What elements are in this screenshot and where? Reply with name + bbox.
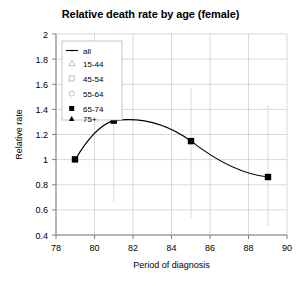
chart-plot: 2 1.8 1.6 1.4 1.2 1 0.8 0.6 0.4 78 80 82… — [0, 0, 301, 286]
x-tick-label: 90 — [282, 243, 292, 253]
y-tick-label: 1.6 — [35, 80, 48, 90]
y-axis-title: Relative rate — [14, 109, 24, 160]
x-tick-label: 86 — [205, 243, 215, 253]
y-tick-label: 0.4 — [35, 231, 48, 241]
chart-legend: all 15-44 45-54 55-64 65-74 75+ — [62, 41, 122, 124]
data-point-marker — [265, 174, 271, 180]
x-tick-labels: 78 80 82 84 86 88 90 — [51, 243, 292, 253]
legend-label: all — [83, 47, 91, 56]
legend-marker-filled-square-icon — [69, 106, 74, 111]
x-tick-label: 78 — [51, 243, 61, 253]
legend-label: 55-64 — [83, 90, 104, 99]
y-tick-label: 1.4 — [35, 105, 48, 115]
y-tick-label: 2 — [43, 30, 48, 40]
y-tick-label: 1.8 — [35, 55, 48, 65]
data-point-marker — [72, 156, 78, 162]
y-tick-label: 0.6 — [35, 205, 48, 215]
x-tick-label: 88 — [243, 243, 253, 253]
data-point-marker — [188, 138, 194, 144]
x-tick-label: 82 — [128, 243, 138, 253]
legend-label: 75+ — [83, 115, 97, 124]
chart-container: Relative death rate by age (female) — [0, 0, 301, 286]
y-axis-ticks — [52, 34, 56, 235]
y-tick-label: 0.8 — [35, 180, 48, 190]
x-axis-title: Period of diagnosis — [133, 260, 210, 270]
y-tick-labels: 2 1.8 1.6 1.4 1.2 1 0.8 0.6 0.4 — [35, 30, 48, 241]
legend-label: 15-44 — [83, 60, 104, 69]
y-tick-label: 1 — [43, 155, 48, 165]
x-axis-ticks — [56, 235, 287, 239]
legend-label: 45-54 — [83, 75, 104, 84]
x-tick-label: 80 — [89, 243, 99, 253]
legend-label: 65-74 — [83, 105, 104, 114]
x-tick-label: 84 — [166, 243, 176, 253]
y-tick-label: 1.2 — [35, 130, 48, 140]
